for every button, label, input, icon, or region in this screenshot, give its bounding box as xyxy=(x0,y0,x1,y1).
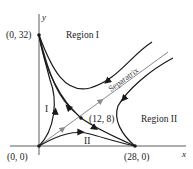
region-1-label: Region I xyxy=(66,30,99,40)
point-0-32 xyxy=(37,33,41,37)
y-axis-label: y xyxy=(41,12,46,22)
label-0-32: (0, 32) xyxy=(6,30,31,41)
region-small-2-label: II xyxy=(84,136,90,146)
phase-plane-diagram: y x Separatrix (0, 32) (0, 0) (28, 0) (1… xyxy=(0,0,193,169)
x-axis-label: x xyxy=(181,149,186,159)
label-0-0: (0, 0) xyxy=(7,152,28,163)
region-small-1-trajectory xyxy=(39,35,54,146)
separatrix-label: Separatrix xyxy=(106,65,141,94)
point-12-8 xyxy=(79,116,83,120)
region-2-label: Region II xyxy=(141,114,177,124)
region-small-1-label: I xyxy=(45,104,48,114)
label-28-0: (28, 0) xyxy=(124,152,149,163)
point-28-0 xyxy=(133,144,137,148)
point-0-0 xyxy=(37,144,41,148)
label-12-8: (12, 8) xyxy=(89,114,114,125)
separatrix-arrow-2 xyxy=(98,101,101,103)
separatrix-line xyxy=(39,52,168,146)
region-1-trajectory xyxy=(39,35,152,89)
